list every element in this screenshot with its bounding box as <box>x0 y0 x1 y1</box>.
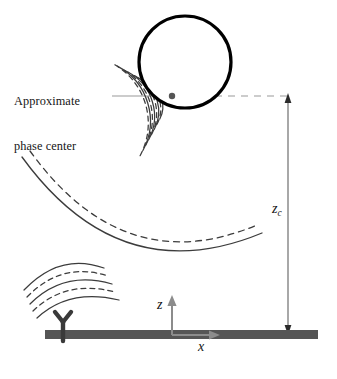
phase-center-annotation-line2: phase center <box>14 139 80 154</box>
dimension-arrowhead-up-icon <box>285 93 292 103</box>
phase-center-dot <box>169 93 175 99</box>
phase-center-annotation: Approximate phase center <box>14 64 80 184</box>
diagram-canvas <box>0 0 337 379</box>
zc-dimension-line <box>285 93 292 335</box>
wave-arc <box>27 272 108 297</box>
x-axis-label: x <box>198 338 204 355</box>
wave-arc <box>24 263 104 290</box>
z-axis-label: z <box>157 296 162 313</box>
phase-center-diagram: Approximate phase center zc z x <box>0 0 337 379</box>
reflector-circle <box>139 16 231 108</box>
wave-arc <box>37 297 119 318</box>
phase-center-annotation-line1: Approximate <box>14 94 80 109</box>
z-axis-arrowhead-icon <box>167 295 176 306</box>
height-subscript: c <box>277 208 281 218</box>
height-dimension-label: zc <box>272 200 282 219</box>
wavefronts-lower-left <box>24 263 119 318</box>
